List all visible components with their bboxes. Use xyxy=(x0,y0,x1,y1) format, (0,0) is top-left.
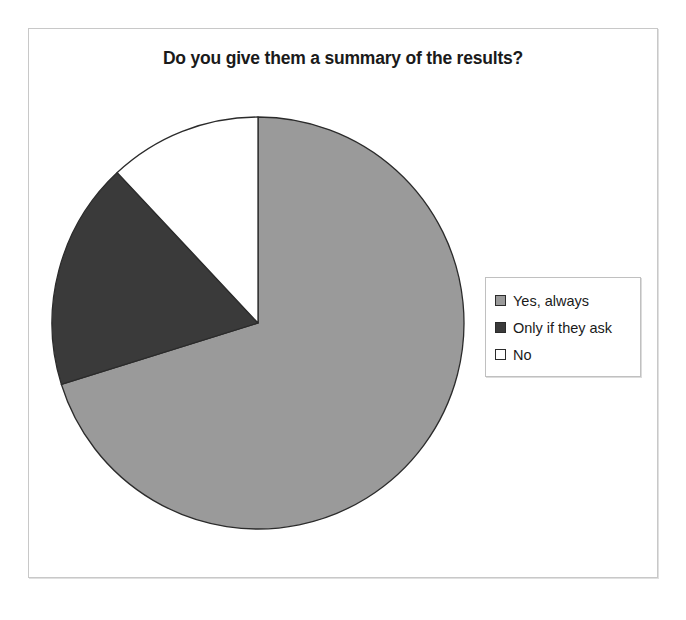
legend-swatch-only-if-they-ask xyxy=(495,322,506,333)
legend-label-yes-always: Yes, always xyxy=(513,293,589,309)
legend-label-only-if-they-ask: Only if they ask xyxy=(513,320,612,336)
chart-legend: Yes, always Only if they ask No xyxy=(485,277,641,377)
legend-item-yes-always[interactable]: Yes, always xyxy=(495,287,640,314)
chart-frame: Do you give them a summary of the result… xyxy=(28,28,658,578)
legend-item-no[interactable]: No xyxy=(495,341,640,368)
legend-label-no: No xyxy=(513,347,532,363)
legend-item-only-if-they-ask[interactable]: Only if they ask xyxy=(495,314,640,341)
legend-swatch-no xyxy=(495,349,506,360)
pie-slice-group xyxy=(52,117,464,529)
legend-swatch-yes-always xyxy=(495,295,506,306)
